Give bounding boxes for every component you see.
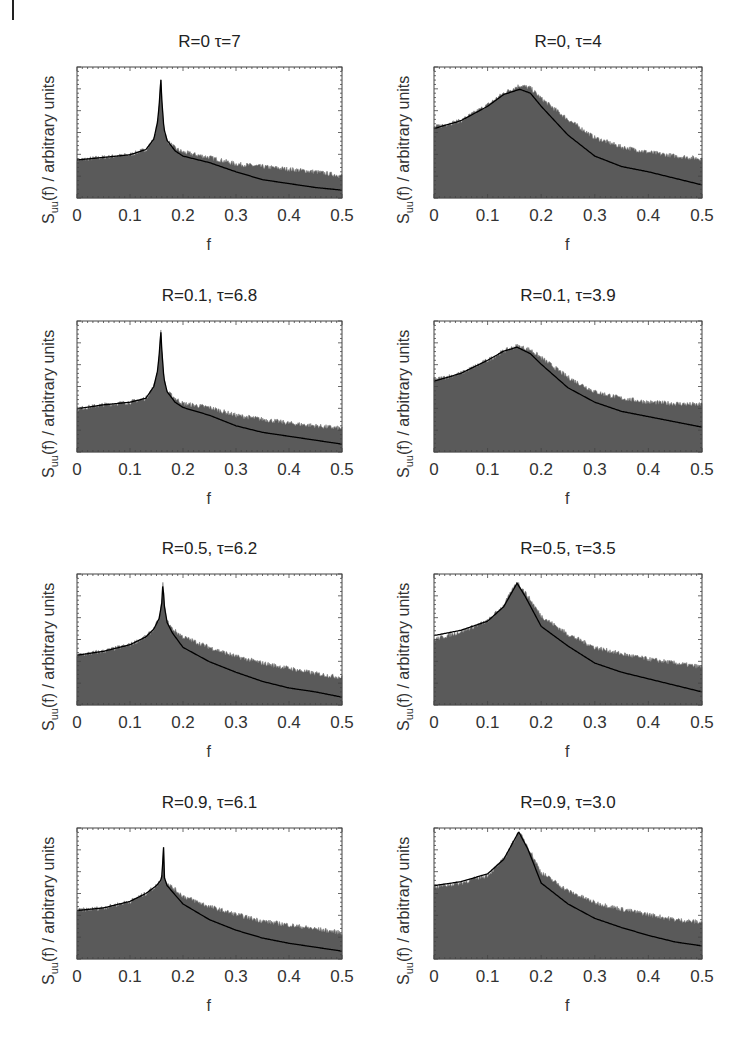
spectrum-area (434, 832, 702, 959)
x-tick-label: 0.5 (690, 713, 714, 733)
x-axis-label: f (207, 236, 211, 254)
x-tick-label: 0.5 (690, 967, 714, 987)
x-tick-label: 0.2 (171, 967, 195, 987)
x-tick-label: 0.1 (118, 460, 142, 480)
chart-title: R=0.5, τ=3.5 (434, 539, 702, 559)
x-tick-label: 0 (72, 713, 81, 733)
y-axis-label: Suu(f) / arbitrary units (395, 837, 415, 985)
chart-title: R=0.9, τ=3.0 (434, 793, 702, 813)
x-tick-label: 0.1 (118, 206, 142, 226)
x-tick-label: 0.3 (583, 206, 607, 226)
x-tick-label: 0.4 (277, 967, 301, 987)
x-tick-label: 0.1 (476, 967, 500, 987)
spectrum-plot (77, 67, 342, 198)
x-tick-label: 0.2 (529, 460, 553, 480)
x-tick-label: 0.2 (529, 206, 553, 226)
x-tick-label: 0 (429, 206, 438, 226)
x-axis-label: f (207, 743, 211, 761)
x-tick-label: 0 (72, 967, 81, 987)
spectrum-plot (77, 574, 342, 705)
spectrum-plot (434, 828, 702, 959)
spectrum-area (434, 85, 702, 198)
spectrum-plot (77, 828, 342, 959)
x-tick-label: 0.2 (529, 713, 553, 733)
spectrum-plot (434, 67, 702, 198)
x-tick-label: 0.4 (277, 713, 301, 733)
chart-title: R=0.1, τ=3.9 (434, 286, 702, 306)
x-tick-label: 0.2 (171, 460, 195, 480)
x-tick-label: 0.1 (476, 713, 500, 733)
chart-title: R=0, τ=4 (434, 32, 702, 52)
chart-title: R=0.5, τ=6.2 (77, 539, 342, 559)
x-tick-label: 0.2 (171, 206, 195, 226)
x-tick-label: 0 (429, 713, 438, 733)
spectrum-plot (434, 321, 702, 452)
spectrum-plot (434, 574, 702, 705)
x-tick-label: 0.1 (118, 713, 142, 733)
x-tick-label: 0.3 (583, 460, 607, 480)
x-axis-label: f (207, 490, 211, 508)
x-tick-label: 0.4 (637, 713, 661, 733)
x-tick-label: 0 (429, 460, 438, 480)
x-axis-label: f (565, 236, 569, 254)
x-tick-label: 0.3 (583, 967, 607, 987)
x-tick-label: 0.4 (277, 206, 301, 226)
y-axis-label: Suu(f) / arbitrary units (40, 583, 60, 731)
x-tick-label: 0.3 (224, 713, 248, 733)
x-tick-label: 0 (72, 460, 81, 480)
x-tick-label: 0.4 (637, 206, 661, 226)
x-tick-label: 0.3 (224, 967, 248, 987)
x-axis-label: f (565, 743, 569, 761)
spectrum-plot (77, 321, 342, 452)
y-axis-label: Suu(f) / arbitrary units (395, 330, 415, 478)
y-axis-label: Suu(f) / arbitrary units (395, 76, 415, 224)
x-tick-label: 0.5 (330, 460, 354, 480)
spectrum-area (77, 79, 342, 198)
x-tick-label: 0.3 (583, 713, 607, 733)
x-tick-label: 0.1 (118, 967, 142, 987)
x-tick-label: 0.2 (529, 967, 553, 987)
y-axis-label: Suu(f) / arbitrary units (40, 76, 60, 224)
x-tick-label: 0.3 (224, 206, 248, 226)
x-tick-label: 0.4 (637, 460, 661, 480)
x-axis-label: f (565, 490, 569, 508)
x-tick-label: 0.5 (330, 206, 354, 226)
x-axis-label: f (207, 997, 211, 1015)
x-tick-label: 0.3 (224, 460, 248, 480)
spectrum-area (434, 344, 702, 452)
x-tick-label: 0 (429, 967, 438, 987)
spectrum-area (434, 582, 702, 705)
x-tick-label: 0.5 (690, 460, 714, 480)
x-tick-label: 0.1 (476, 460, 500, 480)
chart-title: R=0.9, τ=6.1 (77, 793, 342, 813)
spectrum-area (77, 330, 342, 452)
page-margin-marker (12, 0, 14, 20)
y-axis-label: Suu(f) / arbitrary units (40, 330, 60, 478)
x-tick-label: 0 (72, 206, 81, 226)
chart-title: R=0 τ=7 (77, 32, 342, 52)
x-tick-label: 0.2 (171, 713, 195, 733)
x-tick-label: 0.4 (277, 460, 301, 480)
x-axis-label: f (565, 997, 569, 1015)
y-axis-label: Suu(f) / arbitrary units (40, 837, 60, 985)
y-axis-label: Suu(f) / arbitrary units (395, 583, 415, 731)
x-tick-label: 0.5 (330, 967, 354, 987)
spectrum-area (77, 847, 342, 959)
x-tick-label: 0.5 (690, 206, 714, 226)
spectrum-area (77, 582, 342, 705)
x-tick-label: 0.1 (476, 206, 500, 226)
x-tick-label: 0.5 (330, 713, 354, 733)
x-tick-label: 0.4 (637, 967, 661, 987)
chart-title: R=0.1, τ=6.8 (77, 286, 342, 306)
